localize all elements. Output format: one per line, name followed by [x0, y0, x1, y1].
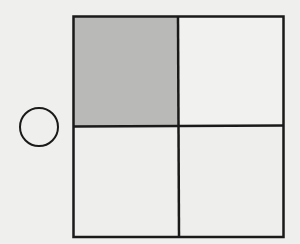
grid: [74, 17, 284, 238]
empty-circle: [20, 108, 58, 146]
diagram-canvas: [0, 0, 300, 244]
grid-cell-bottom-left: [74, 126, 179, 237]
grid-cell-bottom-right: [178, 126, 284, 237]
grid-cell-top-left-shaded: [74, 17, 179, 127]
grid-cell-top-right: [178, 17, 284, 127]
grid-horizontal-divider: [74, 126, 284, 127]
